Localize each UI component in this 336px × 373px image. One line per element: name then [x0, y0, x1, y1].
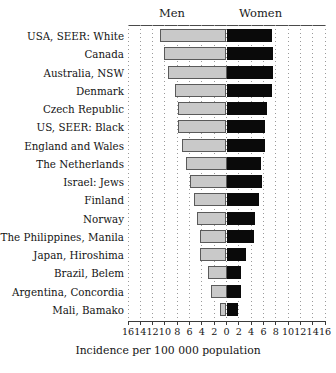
bar-women-14: [227, 285, 241, 298]
bar-row: [0, 230, 336, 243]
bar-men-0: [160, 29, 226, 42]
chart-container: Men Women 1614121086420246810121416 USA,…: [0, 0, 336, 373]
bar-women-12: [227, 248, 246, 261]
bar-row: [0, 47, 336, 60]
bar-men-8: [190, 175, 227, 188]
bar-women-7: [227, 157, 261, 170]
bar-men-4: [178, 102, 226, 115]
x-tick-label-16: 16: [316, 326, 334, 337]
x-tick--14: [140, 321, 141, 325]
bar-women-1: [227, 47, 273, 60]
bar-women-15: [227, 303, 239, 316]
bar-women-8: [227, 175, 262, 188]
bar-row: [0, 84, 336, 97]
bar-men-6: [182, 139, 226, 152]
bar-women-5: [227, 120, 266, 133]
bar-men-5: [178, 120, 226, 133]
bar-row: [0, 139, 336, 152]
bar-men-3: [175, 84, 226, 97]
bar-men-10: [197, 212, 227, 225]
bar-row: [0, 193, 336, 206]
bar-women-9: [227, 193, 260, 206]
bar-row: [0, 102, 336, 115]
x-tick--4: [201, 321, 202, 325]
bar-women-13: [227, 266, 241, 279]
bar-men-11: [200, 230, 226, 243]
bar-men-1: [164, 47, 227, 60]
bar-row: [0, 248, 336, 261]
x-tick-14: [312, 321, 313, 325]
x-axis-title: Incidence per 100 000 population: [0, 344, 336, 357]
column-header-men: Men: [159, 6, 185, 20]
x-tick-0: [226, 321, 227, 325]
bar-women-0: [227, 29, 273, 42]
x-tick-8: [275, 321, 276, 325]
bar-row: [0, 285, 336, 298]
column-header-women: Women: [239, 6, 282, 20]
bar-women-10: [227, 212, 255, 225]
x-tick-2: [238, 321, 239, 325]
bar-row: [0, 66, 336, 79]
x-tick--2: [214, 321, 215, 325]
bar-row: [0, 303, 336, 316]
x-tick-16: [325, 321, 326, 325]
x-tick--8: [177, 321, 178, 325]
bar-men-12: [200, 248, 226, 261]
x-tick--10: [164, 321, 165, 325]
bar-men-7: [186, 157, 226, 170]
bar-row: [0, 29, 336, 42]
bar-row: [0, 266, 336, 279]
bar-row: [0, 157, 336, 170]
bar-women-11: [227, 230, 255, 243]
bar-men-13: [208, 266, 226, 279]
bar-men-2: [168, 66, 226, 79]
bar-women-6: [227, 139, 266, 152]
x-tick--6: [189, 321, 190, 325]
bar-men-14: [211, 285, 226, 298]
bar-row: [0, 175, 336, 188]
bar-row: [0, 120, 336, 133]
x-tick-10: [288, 321, 289, 325]
bar-women-2: [227, 66, 273, 79]
x-tick--16: [128, 321, 129, 325]
x-tick-6: [263, 321, 264, 325]
x-tick-12: [300, 321, 301, 325]
x-tick--12: [152, 321, 153, 325]
bar-row: [0, 212, 336, 225]
bar-women-4: [227, 102, 267, 115]
bar-women-3: [227, 84, 273, 97]
x-tick-4: [251, 321, 252, 325]
bar-men-15: [220, 303, 227, 316]
bar-men-9: [194, 193, 227, 206]
